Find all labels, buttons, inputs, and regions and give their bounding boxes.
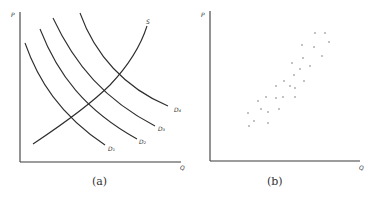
scatter-point bbox=[247, 112, 249, 114]
scatter-point bbox=[309, 65, 311, 67]
scatter-point bbox=[278, 108, 280, 110]
scatter-point bbox=[289, 85, 291, 87]
scatter-point bbox=[313, 46, 315, 48]
demand-curve-1 bbox=[25, 43, 105, 145]
supply-curve bbox=[33, 26, 147, 144]
demand-label-3: D₃ bbox=[158, 125, 166, 132]
x-axis-label: Q bbox=[180, 164, 185, 171]
scatter-points bbox=[247, 32, 330, 127]
scatter-point bbox=[267, 122, 269, 124]
scatter-point bbox=[302, 57, 304, 59]
x-axis-label: Q bbox=[359, 164, 364, 171]
scatter-point bbox=[321, 55, 323, 57]
scatter-point bbox=[294, 96, 296, 98]
scatter-point bbox=[265, 96, 267, 98]
demand-label-1: D₁ bbox=[108, 145, 116, 152]
scatter-point bbox=[282, 96, 284, 98]
caption-b: (b) bbox=[267, 175, 283, 188]
demand-curve-3 bbox=[53, 18, 155, 126]
panel-a: P Q S D₁ D₂ D₃ D₄ (a) bbox=[11, 11, 185, 188]
scatter-point bbox=[257, 100, 259, 102]
scatter-point bbox=[314, 32, 316, 34]
scatter-point bbox=[324, 32, 326, 34]
y-axis-label: P bbox=[201, 11, 205, 18]
scatter-point bbox=[303, 80, 305, 82]
scatter-point bbox=[301, 44, 303, 46]
scatter-point bbox=[293, 74, 295, 76]
figure: P Q S D₁ D₂ D₃ D₄ (a) P Q (b) bbox=[0, 0, 374, 198]
scatter-point bbox=[328, 41, 330, 43]
scatter-point bbox=[275, 85, 277, 87]
demand-label-2: D₂ bbox=[139, 138, 147, 145]
caption-a: (a) bbox=[92, 175, 107, 188]
scatter-point bbox=[253, 120, 255, 122]
demand-label-4: D₄ bbox=[174, 106, 182, 113]
scatter-point bbox=[294, 87, 296, 89]
scatter-point bbox=[299, 68, 301, 70]
scatter-point bbox=[267, 111, 269, 113]
y-axis-label: P bbox=[11, 11, 15, 18]
supply-label: S bbox=[146, 18, 150, 25]
scatter-point bbox=[248, 125, 250, 127]
scatter-point bbox=[291, 62, 293, 64]
demand-curve-2 bbox=[40, 29, 137, 139]
demand-curve-4 bbox=[80, 13, 168, 106]
scatter-point bbox=[283, 80, 285, 82]
panel-b: P Q (b) bbox=[201, 11, 364, 188]
scatter-point bbox=[260, 108, 262, 110]
scatter-point bbox=[275, 97, 277, 99]
